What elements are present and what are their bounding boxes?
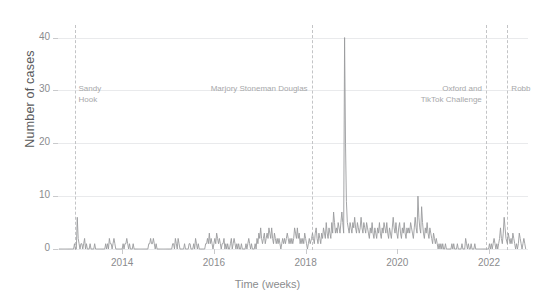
annotation-line: Marjory Stoneman Douglas	[211, 84, 308, 95]
annotation-line: Robb	[511, 84, 530, 95]
annotation-line: Oxford and	[421, 84, 482, 95]
annotation-line: TikTok Challenge	[421, 95, 482, 106]
chart-figure: Number of cases Time (weeks) 010203040 2…	[0, 0, 535, 301]
event-annotation: SandyHook	[79, 84, 102, 105]
case-count-line	[59, 38, 526, 249]
series-line	[0, 0, 535, 301]
event-annotation: Oxford andTikTok Challenge	[421, 84, 482, 105]
annotation-line: Hook	[79, 95, 102, 106]
event-annotation: Marjory Stoneman Douglas	[211, 84, 308, 95]
annotation-line: Sandy	[79, 84, 102, 95]
event-annotation: Robb	[511, 84, 530, 95]
